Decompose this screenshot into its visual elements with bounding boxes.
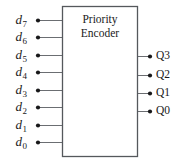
output-wire-group xyxy=(138,57,150,112)
input-label-d2: d2 xyxy=(0,100,27,116)
input-node-d1 xyxy=(36,123,40,127)
output-label-Q2: Q2 xyxy=(156,69,170,81)
output-node-Q3 xyxy=(148,54,152,58)
input-wire-group xyxy=(38,21,62,143)
input-label-d5: d5 xyxy=(0,48,27,64)
input-label-d1: d1 xyxy=(0,118,27,134)
input-node-d3 xyxy=(36,88,40,92)
output-node-Q2 xyxy=(148,73,152,77)
block-title-label: Priority Encoder xyxy=(62,13,138,40)
priority-encoder-diagram: Priority Encoder d7d6d5d4d3d2d1d0 Q3Q2Q1… xyxy=(0,0,183,166)
output-node-Q0 xyxy=(148,109,152,113)
output-label-Q3: Q3 xyxy=(156,50,170,62)
input-node-d5 xyxy=(36,53,40,57)
input-label-d3: d3 xyxy=(0,83,27,99)
output-label-Q0: Q0 xyxy=(156,105,170,117)
output-node-group xyxy=(148,54,152,113)
input-node-d4 xyxy=(36,70,40,74)
input-label-d6: d6 xyxy=(0,30,27,46)
input-node-d2 xyxy=(36,105,40,109)
output-label-Q1: Q1 xyxy=(156,87,170,99)
output-node-Q1 xyxy=(148,91,152,95)
input-label-d0: d0 xyxy=(0,135,27,151)
input-label-d7: d7 xyxy=(0,13,27,29)
input-label-d4: d4 xyxy=(0,65,27,81)
input-node-d0 xyxy=(36,140,40,144)
input-node-group xyxy=(36,18,40,144)
input-node-d7 xyxy=(36,18,40,22)
input-node-d6 xyxy=(36,35,40,39)
